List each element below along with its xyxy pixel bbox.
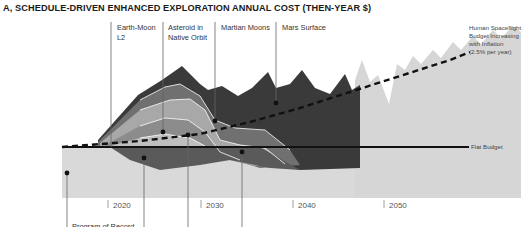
- tick-2040: 2040: [298, 201, 316, 210]
- callout-asteroid: Asteroid in Native Orbit: [168, 23, 207, 42]
- x-axis: 2020 2030 2040 2050: [108, 200, 407, 210]
- area-chart: Earth-Moon L2 Asteroid in Native Orbit M…: [0, 0, 527, 227]
- callout-martian-moons: Martian Moons: [221, 23, 270, 32]
- tick-2050: 2050: [389, 201, 407, 210]
- callout-mars-surface: Mars Surface: [282, 23, 326, 32]
- flat-budget-label: Flat Budget: [471, 143, 503, 150]
- tick-2020: 2020: [113, 201, 131, 210]
- tick-2030: 2030: [206, 201, 224, 210]
- callout-program-of-record: Program of Record: [72, 222, 134, 227]
- callout-earth-moon: Earth-Moon L2: [117, 23, 158, 42]
